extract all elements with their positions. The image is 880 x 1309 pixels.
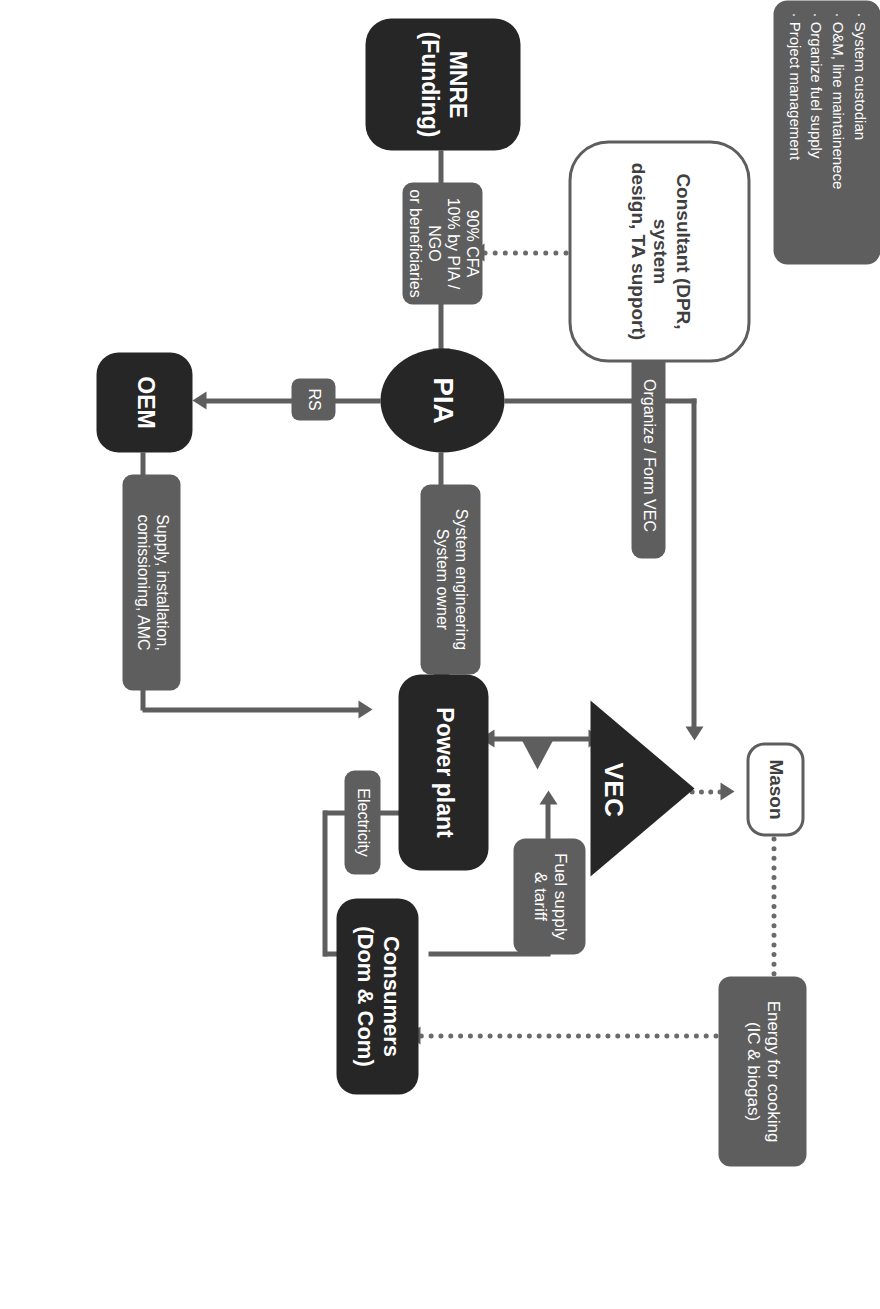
label-energy-line1: Energy for cooking [762,1000,782,1142]
edge-consultant-to-funding-dotted [482,250,568,255]
label-fuel-supply-tariff: Fuel supply & tariff [513,838,585,954]
label-supply-install-line1: Supply, installation, [151,514,170,651]
arrowhead-pia-to-oem [192,391,206,409]
label-organize-form-vec: Organize / Form VEC [631,352,665,558]
label-funding: 90% CFA 10% by PIA / NGO or beneficiarie… [402,182,482,304]
label-supply-install: Supply, installation, comissioning, AMC [122,474,180,690]
node-consumers[interactable]: Consumers (Dom & Com) [336,898,418,1094]
arrowhead-vec-to-mason [720,782,734,800]
label-fuel-supply-line2: & tariff [529,872,549,921]
label-rs: RS [291,378,335,420]
label-energy-for-cooking: Energy for cooking (IC & biogas) [718,976,806,1166]
label-organize-form-vec-text: Organize / Form VEC [639,379,658,532]
edge-powerplant-to-consumers-horizontal [322,810,327,956]
arrowhead-fuelsupply-to-vec [539,790,557,804]
edge-pia-to-vec-vertical [504,398,696,403]
label-electricity: Electricity [344,770,380,874]
label-funding-line1: 90% CFA [461,209,480,277]
node-oem-label: OEM [130,376,157,428]
node-consumers-line1: Consumers [377,935,403,1056]
node-consultant-line2: design, TA support) [625,162,647,339]
label-supply-install-line2: comissioning, AMC [132,514,151,650]
node-mason[interactable]: Mason [746,742,804,836]
callout-item-1: O&M, line maintainenece [827,12,849,252]
label-funding-line2: 10% by PIA / NGO [423,182,461,304]
label-funding-line3: or beneficiaries [404,189,423,298]
label-fuel-supply-line1: Fuel supply [549,853,569,940]
node-mnre-label: MNRE (Funding) [415,18,469,150]
node-consumers-line2: (Dom & Com) [351,926,377,1067]
node-consultant[interactable]: Consultant (DPR, system design, TA suppo… [568,140,750,362]
node-pia-label: PIA [425,377,458,424]
callout-vec-responsibilities: System custodian O&M, line maintainenece… [773,0,880,264]
callout-item-2: Organize fuel supply [805,12,827,252]
edge-pia-to-vec-horizontal [691,398,696,728]
label-system-engineering-line1: System engineering [450,508,469,649]
label-system-engineering-line2: System owner [431,528,450,629]
label-energy-line2: (IC & biogas) [742,1021,762,1120]
label-rs-text: RS [304,388,323,410]
node-pia[interactable]: PIA [380,348,504,452]
node-oem[interactable]: OEM [96,352,192,452]
label-electricity-text: Electricity [353,788,372,856]
label-system-engineering: System engineering System owner [420,484,480,674]
callout-tail [521,739,553,769]
node-vec-label: VEC [597,762,628,817]
edge-mason-to-energy-dotted [771,836,776,976]
diagram-stage: MNRE (Funding) 90% CFA 10% by PIA / NGO … [0,0,880,1309]
callout-item-0: System custodian [848,12,870,252]
edge-energy-to-consumers-dotted [418,1033,718,1038]
node-mason-label: Mason [764,759,786,819]
edge-oem-to-powerplant-vertical [142,707,360,712]
node-mnre[interactable]: MNRE (Funding) [365,18,520,150]
callout-item-3: Project management [783,12,805,252]
diagram-canvas: MNRE (Funding) 90% CFA 10% by PIA / NGO … [0,0,880,1309]
node-consultant-line1: Consultant (DPR, system [648,143,693,359]
node-power-plant[interactable]: Power plant [398,674,488,870]
arrowhead-oem-to-powerplant [358,700,372,718]
node-power-plant-label: Power plant [429,707,456,837]
